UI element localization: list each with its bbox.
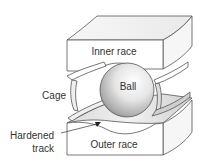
label-ball: Ball <box>120 81 137 92</box>
label-hardened-track-line2: track <box>32 143 55 154</box>
ball-bearing-diagram: Inner race Ball Cage Hardened track Oute… <box>0 0 206 167</box>
label-inner-race: Inner race <box>91 46 136 57</box>
label-cage: Cage <box>42 90 66 101</box>
label-hardened-track-line1: Hardened <box>10 130 54 141</box>
cage-left-lip <box>71 80 78 111</box>
label-outer-race: Outer race <box>90 139 138 150</box>
